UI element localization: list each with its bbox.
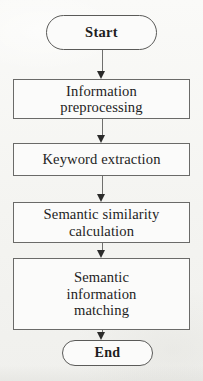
flowchart-node-semantic-similarity-calculation: Semantic similarity calculation xyxy=(13,202,190,243)
node-label-keyword-extraction: Keyword extraction xyxy=(38,151,164,167)
flow-arrow-matching-to-end xyxy=(101,330,103,340)
node-label-start: Start xyxy=(81,24,122,41)
down-arrow-icon xyxy=(97,135,105,143)
node-label-end: End xyxy=(91,345,125,361)
node-label-semantic-information-matching: Semantic information matching xyxy=(63,269,141,318)
flow-arrow-preprocessing-to-keyword xyxy=(101,119,103,143)
flow-arrow-similarity-to-matching xyxy=(101,243,103,258)
down-arrow-icon xyxy=(97,194,105,202)
flowchart-node-semantic-information-matching: Semantic information matching xyxy=(13,258,190,330)
flowchart-node-start: Start xyxy=(46,15,157,50)
arrow-shaft-icon xyxy=(102,50,103,72)
scan-artifact xyxy=(0,365,203,381)
node-label-semantic-similarity-calculation: Semantic similarity calculation xyxy=(40,206,164,239)
flow-arrow-keyword-to-similarity xyxy=(101,176,103,202)
flowchart-node-information-preprocessing: Information preprocessing xyxy=(13,79,190,119)
flowchart-node-end: End xyxy=(62,340,153,366)
arrow-shaft-icon xyxy=(102,176,103,195)
down-arrow-icon xyxy=(97,332,105,340)
node-label-information-preprocessing: Information preprocessing xyxy=(56,83,146,116)
down-arrow-icon xyxy=(97,250,105,258)
flowchart-node-keyword-extraction: Keyword extraction xyxy=(13,143,190,176)
arrow-shaft-icon xyxy=(102,119,103,136)
down-arrow-icon xyxy=(97,71,105,79)
flowchart-diagram: Start Information preprocessing Keyword … xyxy=(0,0,203,381)
flow-arrow-start-to-preprocessing xyxy=(101,50,103,79)
